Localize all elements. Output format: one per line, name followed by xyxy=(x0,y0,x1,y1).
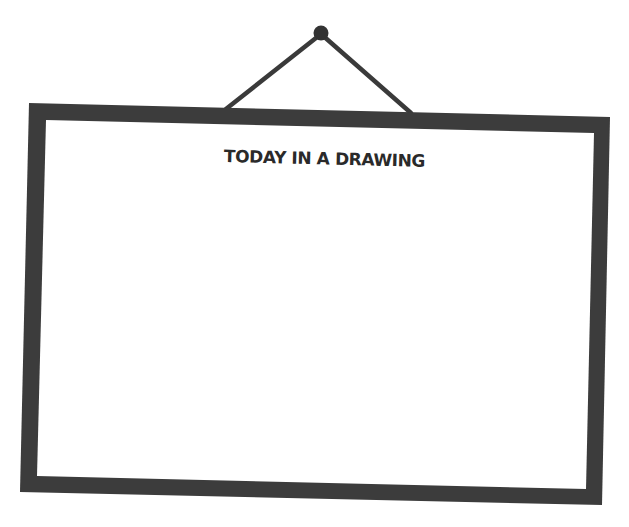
hanging-string-left xyxy=(226,34,321,109)
hanging-picture-frame xyxy=(0,0,629,527)
drawing-canvas xyxy=(37,120,594,489)
hanging-string-right xyxy=(321,34,411,113)
nail-icon xyxy=(314,26,329,41)
